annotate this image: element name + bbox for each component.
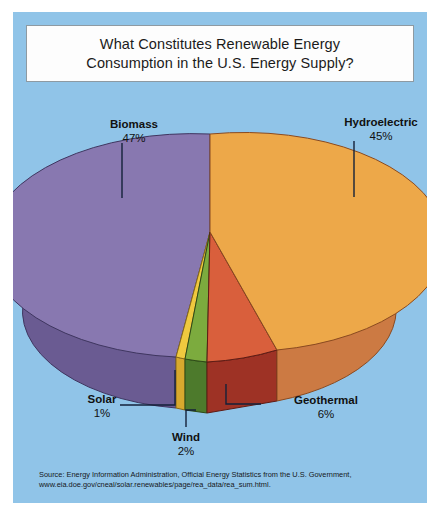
leader-line-wind xyxy=(186,410,196,427)
slice-label-biomass: Biomass 47% xyxy=(79,117,189,145)
slice-label-hydroelectric-name: Hydroelectric xyxy=(318,115,440,129)
slice-label-hydroelectric-pct: 45% xyxy=(318,129,440,143)
pie-top-surface xyxy=(13,132,427,362)
source-note: Source: Energy Information Administratio… xyxy=(39,470,419,490)
source-note-line-1: Source: Energy Information Administratio… xyxy=(39,470,419,480)
slice-label-geothermal-name: Geothermal xyxy=(271,393,381,407)
slice-label-wind-name: Wind xyxy=(149,430,223,444)
slice-label-geothermal: Geothermal 6% xyxy=(271,393,381,421)
slice-label-solar-name: Solar xyxy=(65,392,139,406)
slice-side-solar xyxy=(176,357,185,410)
slice-side-wind xyxy=(185,359,207,413)
slice-label-geothermal-pct: 6% xyxy=(271,407,381,421)
slice-label-biomass-pct: 47% xyxy=(79,131,189,145)
slice-label-solar: Solar 1% xyxy=(65,392,139,420)
slice-label-hydroelectric: Hydroelectric 45% xyxy=(318,115,440,143)
slice-label-solar-pct: 1% xyxy=(65,406,139,420)
pie-chart: Biomass 47% Hydroelectric 45% Solar 1% W… xyxy=(13,12,427,503)
source-note-line-2: www.eia.doe.gov/cneal/solar.renewables/p… xyxy=(39,480,419,490)
slice-label-biomass-name: Biomass xyxy=(79,117,189,131)
slice-label-wind-pct: 2% xyxy=(149,444,223,458)
figure-canvas: What Constitutes Renewable Energy Consum… xyxy=(0,0,440,515)
slice-label-wind: Wind 2% xyxy=(149,430,223,458)
